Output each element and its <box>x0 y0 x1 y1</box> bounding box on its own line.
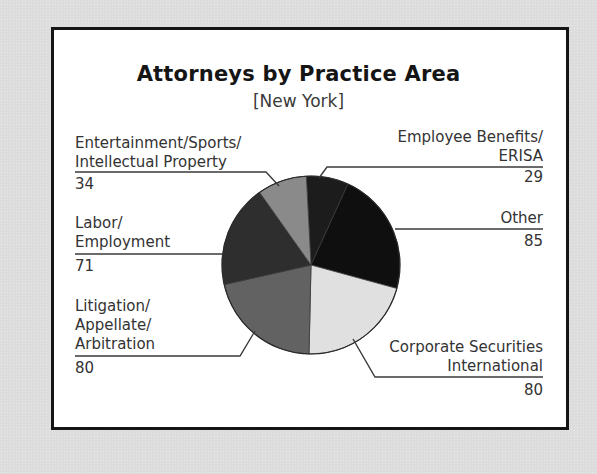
label-entertainment-line1: Entertainment/Sports/ <box>75 134 241 153</box>
label-employee-benefits-line1: Employee Benefits/ <box>397 128 543 147</box>
value-other: 85 <box>524 232 543 251</box>
pie-slices <box>222 176 400 354</box>
label-litigation-line1: Litigation/ <box>75 297 155 316</box>
value-corporate: 80 <box>524 381 543 400</box>
label-corporate-line1: Corporate Securities <box>389 338 543 357</box>
label-labor-line2: Employment <box>75 233 170 252</box>
label-employee-benefits: Employee Benefits/ ERISA <box>397 128 543 166</box>
label-litigation: Litigation/ Appellate/ Arbitration <box>75 297 155 354</box>
label-entertainment: Entertainment/Sports/ Intellectual Prope… <box>75 134 241 172</box>
label-corporate-line2: International <box>389 357 543 376</box>
label-other: Other <box>500 209 543 228</box>
label-employee-benefits-line2: ERISA <box>397 147 543 166</box>
label-litigation-line3: Arbitration <box>75 335 155 354</box>
value-entertainment: 34 <box>75 175 94 194</box>
label-corporate: Corporate Securities International <box>389 338 543 376</box>
label-litigation-line2: Appellate/ <box>75 316 155 335</box>
label-labor: Labor/ Employment <box>75 214 170 252</box>
label-labor-line1: Labor/ <box>75 214 170 233</box>
label-other-line1: Other <box>500 209 543 228</box>
leader-line-entertainment <box>75 172 279 186</box>
value-employee-benefits: 29 <box>524 168 543 187</box>
value-litigation: 80 <box>75 359 94 378</box>
value-labor: 71 <box>75 257 94 276</box>
label-entertainment-line2: Intellectual Property <box>75 153 241 172</box>
leader-line-employee-benefits <box>319 167 543 178</box>
